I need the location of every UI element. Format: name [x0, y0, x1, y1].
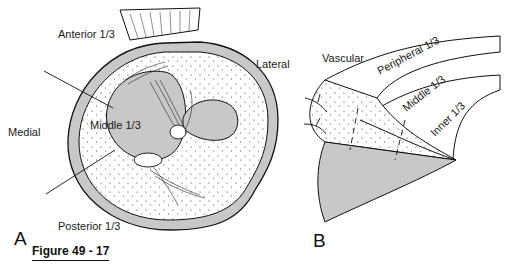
panel-letter-b: B: [313, 230, 326, 252]
label-vascular: Vascular: [322, 52, 364, 64]
label-middle: Middle 1/3: [90, 119, 141, 131]
label-anterior: Anterior 1/3: [58, 28, 115, 40]
label-lateral: Lateral: [256, 58, 290, 70]
tibial-plateau: [44, 8, 278, 230]
label-medial: Medial: [8, 126, 40, 138]
panel-letter-a: A: [14, 228, 27, 250]
label-posterior: Posterior 1/3: [58, 220, 120, 232]
figure-caption: Figure 49 - 17: [32, 244, 109, 261]
